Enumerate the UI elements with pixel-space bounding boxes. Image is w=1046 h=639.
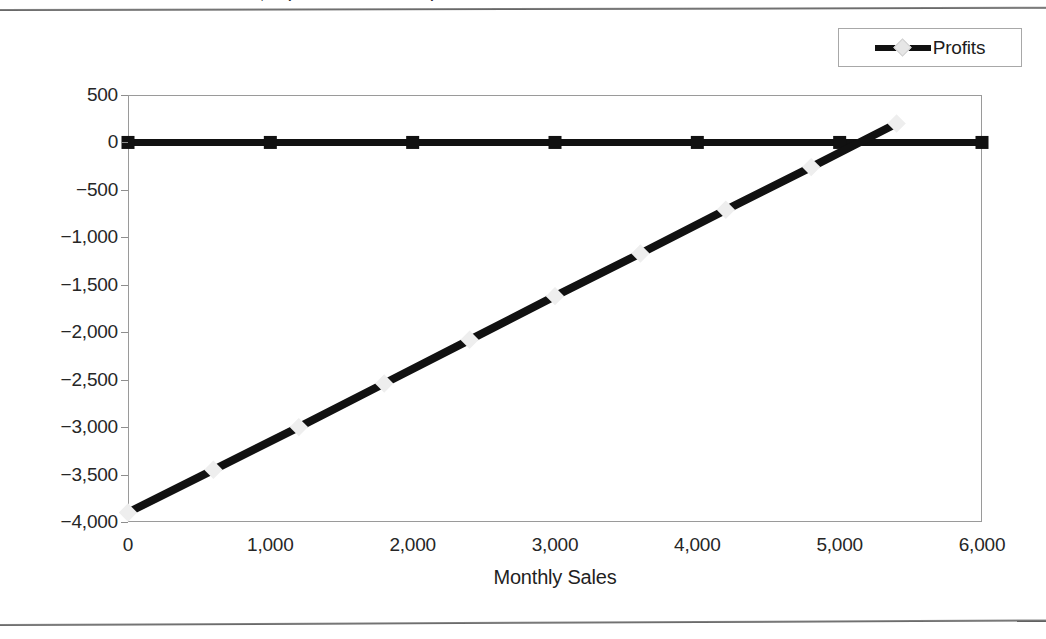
x-axis-tick-label: 3,000 (532, 534, 579, 556)
x-axis-tick-label: 2,000 (389, 534, 436, 556)
line-chart: 5000−500−1,000−1,500−2,000−2,500−3,000−3… (0, 0, 1046, 639)
data-point-marker (691, 136, 704, 149)
y-axis-tick-mark (121, 285, 128, 286)
x-axis-tick-label: 6,000 (959, 534, 1006, 556)
y-axis-tick-label: −1,000 (0, 226, 118, 248)
data-point-marker (976, 136, 989, 149)
scanned-page: FIGURE 4-2 Break-Even Analysis (Units So… (0, 0, 1046, 639)
y-axis-tick-mark (121, 332, 128, 333)
data-point-marker (549, 136, 562, 149)
y-axis-tick-label: 500 (0, 84, 118, 106)
y-axis-tick-label: −1,500 (0, 274, 118, 296)
x-axis-tick-label: 5,000 (816, 534, 863, 556)
y-axis-tick-label: −500 (0, 179, 118, 201)
y-axis-tick-mark (121, 380, 128, 381)
data-point-marker (406, 136, 419, 149)
y-axis-tick-label: −3,000 (0, 416, 118, 438)
plot-series-layer (128, 95, 982, 522)
y-axis-tick-label: −2,500 (0, 369, 118, 391)
y-axis-tick-mark (121, 190, 128, 191)
y-axis-tick-mark (121, 475, 128, 476)
x-axis-title: Monthly Sales (128, 566, 982, 588)
x-axis-tick-label: 1,000 (247, 534, 294, 556)
series-line-profits (128, 123, 897, 512)
y-axis-tick-label: −4,000 (0, 511, 118, 533)
y-axis-tick-mark (121, 95, 128, 96)
y-axis-tick-mark (121, 522, 128, 523)
y-axis-tick-label: −3,500 (0, 464, 118, 486)
x-axis-tick-label: 0 (123, 534, 133, 556)
y-axis-tick-label: 0 (0, 131, 118, 153)
y-axis-tick-mark (121, 237, 128, 238)
y-axis-tick-mark (121, 427, 128, 428)
y-axis-tick-label: −2,000 (0, 321, 118, 343)
x-axis-tick-label: 4,000 (674, 534, 721, 556)
y-axis-tick-mark (121, 142, 128, 143)
data-point-marker (264, 136, 277, 149)
